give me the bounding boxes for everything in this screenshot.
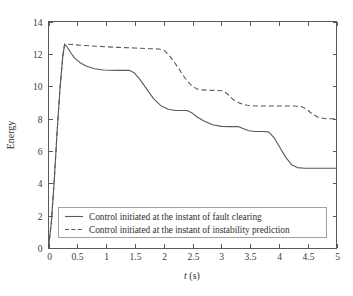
y-tick-label: 0 xyxy=(38,244,43,254)
chart-legend: Control initiated at the instant of faul… xyxy=(59,208,327,238)
y-tick-label: 4 xyxy=(38,179,43,189)
x-tick-label: 3 xyxy=(219,252,224,262)
y-tick-label: 8 xyxy=(38,115,43,125)
y-axis-tick-labels: 02468101214 xyxy=(33,18,43,254)
y-tick-label: 6 xyxy=(38,147,43,157)
x-tick-label: 3.5 xyxy=(245,252,257,262)
legend-label-solid: Control initiated at the instant of faul… xyxy=(89,212,262,222)
y-axis-title: Energy xyxy=(5,121,16,150)
y-tick-label: 2 xyxy=(38,212,43,222)
chart-figure: 00.511.522.533.544.55 02468101214 Energy… xyxy=(0,0,353,296)
x-axis-title: t (s) xyxy=(184,270,200,282)
energy-line-chart: 00.511.522.533.544.55 02468101214 Energy… xyxy=(0,0,353,296)
x-tick-label: 2.5 xyxy=(188,252,200,262)
legend-label-dashed: Control initiated at the instant of inst… xyxy=(89,225,290,235)
x-axis-title-unit: (s) xyxy=(187,270,200,282)
x-tick-label: 4 xyxy=(277,252,282,262)
x-tick-label: 4.5 xyxy=(303,252,315,262)
y-tick-label: 12 xyxy=(33,50,43,60)
x-tick-label: 2 xyxy=(162,252,167,262)
x-tick-label: 1 xyxy=(104,252,109,262)
x-tick-label: 1.5 xyxy=(130,252,142,262)
y-tick-label: 14 xyxy=(33,18,43,28)
x-axis-tick-labels: 00.511.522.533.544.55 xyxy=(47,252,340,262)
y-tick-label: 10 xyxy=(33,82,43,92)
x-tick-label: 0 xyxy=(47,252,52,262)
x-tick-label: 0.5 xyxy=(72,252,84,262)
x-tick-label: 5 xyxy=(335,252,340,262)
